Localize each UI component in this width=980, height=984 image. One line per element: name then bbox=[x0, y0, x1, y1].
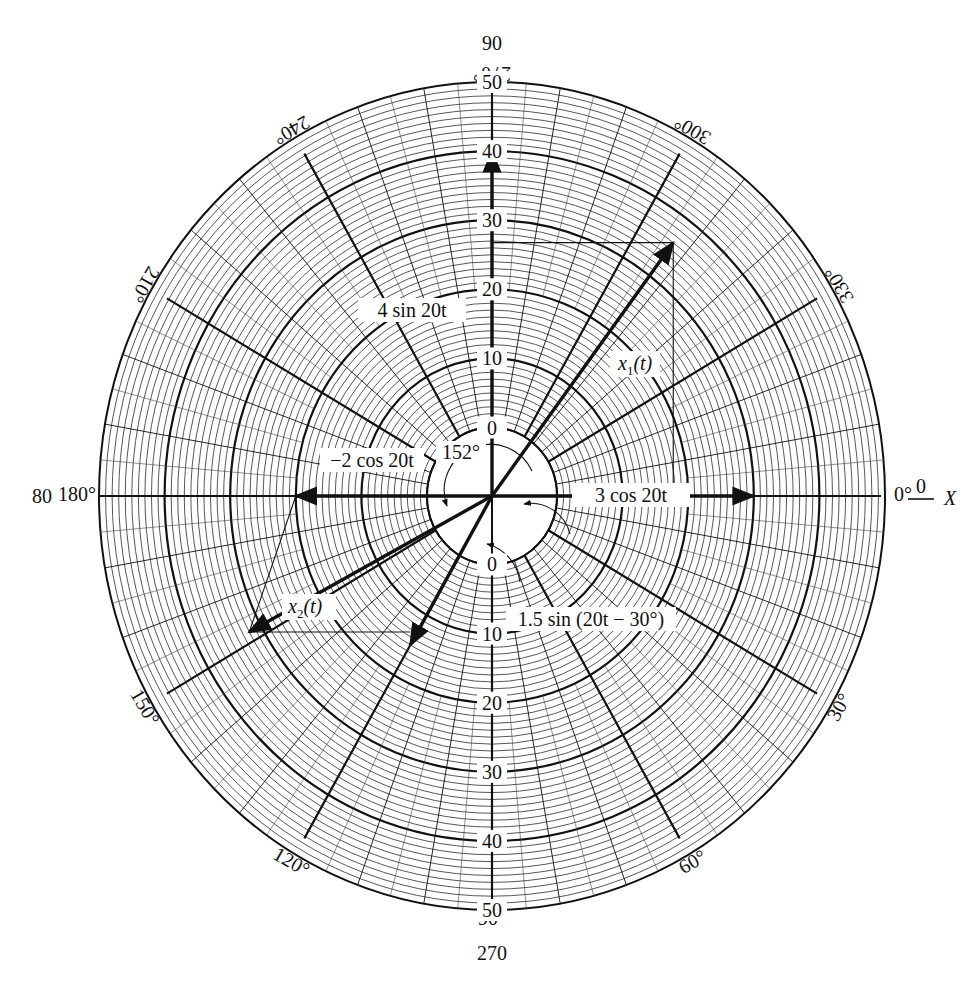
major-spoke bbox=[304, 154, 459, 437]
label-3-cos-20t: 3 cos 20t bbox=[595, 484, 668, 506]
minor-spoke bbox=[458, 84, 475, 291]
label-minus-2-cos-20t: −2 cos 20t bbox=[330, 449, 414, 471]
minor-spoke bbox=[553, 354, 861, 472]
minor-spoke bbox=[542, 540, 793, 762]
minor-spoke bbox=[653, 259, 814, 378]
minor-spoke bbox=[534, 179, 745, 444]
minor-spoke bbox=[191, 540, 442, 762]
minor-spoke bbox=[605, 157, 718, 327]
minor-spoke bbox=[112, 389, 302, 443]
minor-spoke bbox=[682, 389, 872, 443]
radial-scale-label: 0 bbox=[487, 553, 497, 575]
label-4-sin-20t: 4 sin 20t bbox=[378, 299, 447, 321]
angle-label: 0° bbox=[894, 483, 912, 505]
polar-diagram: 90 80 270 0 X 4 sin 20t 3 cos 20t −2 cos… bbox=[0, 0, 980, 984]
angle-label: 300° bbox=[670, 112, 714, 150]
top-outer-label: 90 bbox=[482, 32, 502, 54]
minor-spoke bbox=[239, 548, 450, 813]
minor-spoke bbox=[653, 615, 814, 734]
minor-spoke bbox=[390, 96, 441, 296]
major-spoke bbox=[525, 555, 680, 838]
radial-scale-label: 50 bbox=[482, 899, 502, 921]
angle-152-label: 152° bbox=[442, 441, 480, 463]
major-spoke bbox=[525, 154, 680, 437]
minor-spoke bbox=[267, 665, 380, 835]
minor-spoke bbox=[509, 702, 526, 909]
x-axis-value-label: 0 bbox=[916, 475, 926, 497]
minor-spoke bbox=[191, 230, 442, 452]
radial-scale-label: 30 bbox=[482, 209, 502, 231]
radial-scale-label: 30 bbox=[482, 761, 502, 783]
angle-label: 30° bbox=[822, 689, 855, 724]
minor-spoke bbox=[358, 107, 470, 432]
radial-scale-label: 10 bbox=[482, 347, 502, 369]
x-axis-name-label: X bbox=[943, 487, 957, 509]
radial-scale-label: 20 bbox=[482, 692, 502, 714]
minor-spoke bbox=[390, 696, 441, 896]
radial-scale-label: 0 bbox=[487, 417, 497, 439]
bottom-outer-label: 270 bbox=[477, 942, 507, 964]
minor-spoke bbox=[100, 514, 296, 532]
major-spoke bbox=[548, 298, 817, 461]
minor-spoke bbox=[687, 460, 883, 478]
angle-label: 330° bbox=[820, 263, 858, 307]
minor-spoke bbox=[543, 96, 594, 296]
minor-spoke bbox=[605, 665, 718, 835]
minor-spoke bbox=[687, 514, 883, 532]
label-1-5-sin: 1.5 sin (20t − 30°) bbox=[518, 608, 665, 631]
minor-spoke bbox=[358, 560, 470, 885]
radial-scale-label: 20 bbox=[482, 278, 502, 300]
minor-spoke bbox=[542, 230, 793, 452]
angle-label: 120° bbox=[270, 842, 314, 880]
radial-scale-label: 10 bbox=[482, 623, 502, 645]
radial-scale-label: 40 bbox=[482, 140, 502, 162]
minor-spoke bbox=[112, 549, 302, 603]
angle-label: 180° bbox=[58, 483, 96, 505]
minor-spoke bbox=[543, 696, 594, 896]
minor-spoke bbox=[458, 702, 475, 909]
angle-label: 150° bbox=[126, 685, 164, 729]
minor-spoke bbox=[123, 519, 431, 637]
minor-spoke bbox=[534, 548, 745, 813]
major-spoke bbox=[167, 298, 436, 461]
angle-label: 60° bbox=[675, 845, 710, 878]
minor-spoke bbox=[514, 107, 626, 432]
minor-spoke bbox=[170, 259, 331, 378]
minor-spoke bbox=[682, 549, 872, 603]
angle-label: 240° bbox=[270, 112, 314, 150]
left-outer-label: 80 bbox=[32, 485, 52, 507]
minor-spoke bbox=[509, 84, 526, 291]
radial-scale-label: 40 bbox=[482, 830, 502, 852]
angle-label: 210° bbox=[126, 263, 164, 307]
radial-scale-label: 50 bbox=[482, 71, 502, 93]
minor-spoke bbox=[100, 460, 296, 478]
